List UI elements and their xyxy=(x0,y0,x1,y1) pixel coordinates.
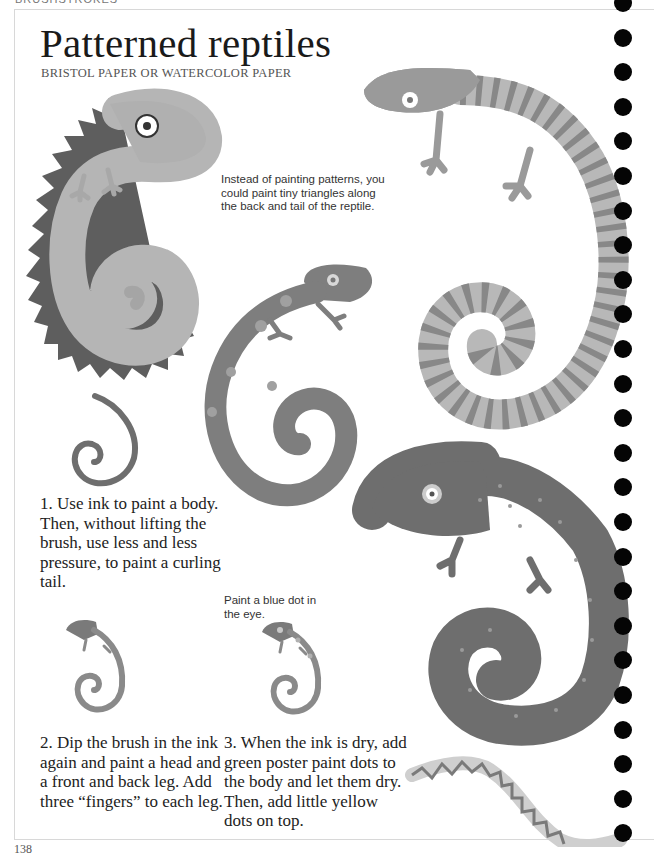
binding-hole xyxy=(614,29,632,47)
eye-tip: Paint a blue dot in the eye. xyxy=(224,594,334,621)
zigzag-snake-illustration xyxy=(412,762,620,846)
striped-lizard-illustration xyxy=(364,68,614,414)
binding-hole xyxy=(614,478,632,496)
page-number: 138 xyxy=(14,842,32,857)
spiral-binding xyxy=(612,0,633,847)
binding-hole xyxy=(614,617,632,635)
step3-lizard-illustration xyxy=(262,622,318,712)
binding-hole xyxy=(614,548,632,566)
binding-hole xyxy=(614,98,632,116)
step2-lizard-illustration xyxy=(66,620,122,710)
binding-hole xyxy=(614,340,632,358)
binding-hole xyxy=(614,755,632,773)
binding-hole xyxy=(614,824,632,842)
binding-hole xyxy=(614,444,632,462)
step-1-text: 1. Use ink to paint a body. Then, withou… xyxy=(40,494,225,592)
binding-hole xyxy=(614,167,632,185)
binding-hole xyxy=(614,375,632,393)
spotted-lizard-illustration xyxy=(207,265,372,496)
binding-hole xyxy=(614,651,632,669)
binding-hole xyxy=(614,305,632,323)
binding-hole xyxy=(614,721,632,739)
binding-hole xyxy=(614,236,632,254)
binding-hole xyxy=(614,409,632,427)
step-2-text: 2. Dip the brush in the ink again and pa… xyxy=(40,733,225,811)
binding-hole xyxy=(614,582,632,600)
triangles-tip: Instead of painting patterns, you could … xyxy=(221,173,391,214)
binding-hole xyxy=(614,63,632,81)
step-3-text: 3. When the ink is dry, add green poster… xyxy=(224,733,409,831)
binding-hole xyxy=(614,790,632,808)
step1-tail-illustration xyxy=(75,396,135,483)
binding-hole xyxy=(614,686,632,704)
binding-hole xyxy=(614,132,632,150)
binding-hole xyxy=(614,202,632,220)
binding-hole xyxy=(614,513,632,531)
dotted-chameleon-illustration xyxy=(372,461,609,725)
spiky-lizard-illustration xyxy=(26,98,206,380)
binding-hole xyxy=(614,271,632,289)
binding-hole xyxy=(614,0,632,12)
